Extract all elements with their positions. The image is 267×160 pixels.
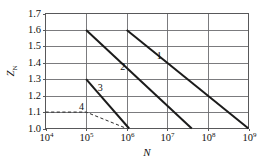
x-axis-tick-labels: 104105106107108109 [40,131,258,143]
x-axis-title: N [142,146,151,158]
y-tick-label: 1.2 [28,90,41,101]
y-tick-label: 1.7 [28,8,41,19]
chart-grid [46,14,249,129]
chart-ticks [43,15,250,132]
x-tick-label: 106 [121,131,136,143]
chart-curve-labels: 1234 [79,50,162,112]
curve-label-3: 3 [98,82,103,93]
x-tick-label: 109 [243,131,258,143]
curve-label-2: 2 [120,61,125,72]
x-tick-label: 107 [161,131,176,143]
y-tick-label: 1.1 [28,106,41,117]
y-tick-label: 1.6 [28,24,41,35]
curve-label-1: 1 [157,50,162,61]
y-axis-title: ZN [4,65,19,76]
y-tick-label: 1.4 [28,57,42,68]
y-tick-label: 1.3 [28,73,41,84]
chart-figure: 1234 1.01.11.21.31.41.51.61.7 1041051061… [0,0,267,160]
y-axis-tick-labels: 1.01.11.21.31.41.51.61.7 [28,8,42,134]
x-tick-label: 104 [40,131,55,143]
life-factor-chart: 1234 1.01.11.21.31.41.51.61.7 1041051061… [0,0,267,160]
curve-label-4: 4 [79,101,84,112]
x-tick-label: 108 [202,131,217,143]
y-tick-label: 1.5 [28,40,41,51]
x-tick-label: 105 [80,131,95,143]
